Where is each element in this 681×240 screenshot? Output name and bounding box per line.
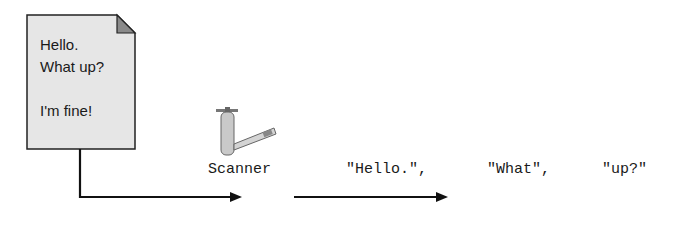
document-line: What up?	[40, 56, 104, 78]
token: "What",	[487, 161, 550, 178]
token: "Hello.",	[346, 161, 427, 178]
document-line: Hello.	[40, 34, 104, 56]
document-line	[40, 78, 104, 100]
token: "up?"	[602, 161, 647, 178]
document-text: Hello. What up? I'm fine!	[40, 34, 104, 122]
faucet-icon	[216, 107, 276, 155]
scanner-label: Scanner	[208, 161, 271, 178]
output-arrow	[294, 192, 448, 202]
document-line: I'm fine!	[40, 100, 104, 122]
